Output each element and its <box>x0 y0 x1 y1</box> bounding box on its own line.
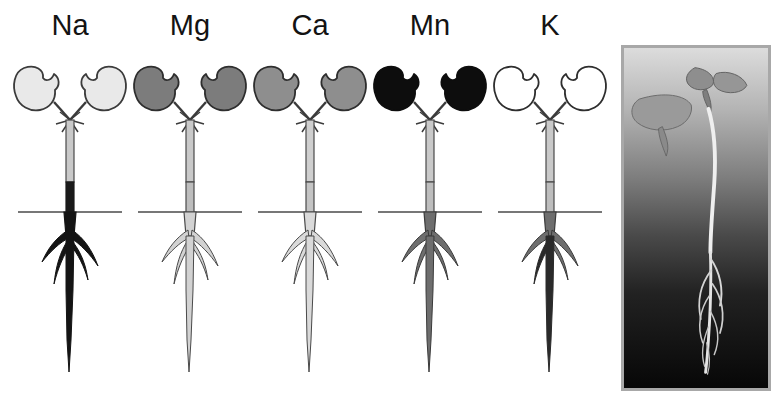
hypocotyl-upper <box>426 120 434 182</box>
mineral-accumulation-figure: Na <box>0 0 781 406</box>
panel-mn: Mn <box>370 0 490 406</box>
seedling-svg-mg <box>130 40 250 400</box>
seedling-diagram-mg <box>130 40 250 400</box>
hypocotyl-lower <box>186 182 194 212</box>
element-label-mn: Mn <box>370 8 490 42</box>
seedling-photo-svg <box>624 48 768 388</box>
tap-root <box>426 236 434 372</box>
element-label-na: Na <box>10 8 130 42</box>
tap-root <box>186 236 194 372</box>
seedling-svg-ca <box>250 40 370 400</box>
panel-mg: Mg <box>130 0 250 406</box>
cotyledon-left <box>134 67 179 111</box>
hypocotyl-lower <box>426 182 434 212</box>
cotyledon-right <box>321 67 366 111</box>
hypocotyl-upper <box>186 120 194 182</box>
panel-na: Na <box>10 0 130 406</box>
seedling-diagram-mn <box>370 40 490 400</box>
cotyledon-left <box>494 67 539 111</box>
seedling-svg-na <box>10 40 130 400</box>
cotyledon-left <box>374 67 419 111</box>
tap-root <box>66 236 74 372</box>
seedling-svg-mn <box>370 40 490 400</box>
seedling-diagram-k <box>490 40 610 400</box>
cotyledon-left <box>14 67 59 111</box>
panel-k: K <box>490 0 610 406</box>
seedling-photograph <box>621 45 771 391</box>
cotyledon-left <box>254 67 299 111</box>
tap-root <box>306 236 314 372</box>
tap-root <box>546 236 554 372</box>
seedling-diagram-ca <box>250 40 370 400</box>
panel-ca: Ca <box>250 0 370 406</box>
element-label-ca: Ca <box>250 8 370 42</box>
element-label-mg: Mg <box>130 8 250 42</box>
hypocotyl-lower <box>546 182 554 212</box>
cotyledon-right <box>561 67 606 111</box>
cotyledon-right <box>201 67 246 111</box>
hypocotyl-lower <box>66 182 74 212</box>
hypocotyl-upper <box>546 120 554 182</box>
seedling-diagram-na <box>10 40 130 400</box>
element-label-k: K <box>490 8 610 42</box>
hypocotyl-lower <box>306 182 314 212</box>
cotyledon-right <box>441 67 486 111</box>
hypocotyl-upper <box>66 120 74 182</box>
hypocotyl-upper <box>306 120 314 182</box>
seedling-svg-k <box>490 40 610 400</box>
cotyledon-right <box>81 67 126 111</box>
